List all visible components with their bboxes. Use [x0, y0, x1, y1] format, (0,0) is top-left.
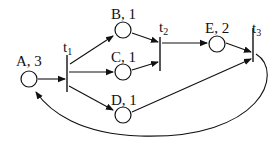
transition-t2-sub: 2 — [163, 26, 168, 37]
transition-t3-sub: 3 — [256, 27, 261, 38]
arc-t3-a — [36, 54, 267, 136]
place-c-label: C, 1 — [111, 49, 136, 65]
place-c: C, 1 — [111, 49, 136, 80]
svg-text:t3: t3 — [252, 20, 261, 38]
arc-d-t3 — [132, 59, 251, 112]
svg-text:t2: t2 — [159, 19, 168, 37]
transition-t3: t3 — [252, 20, 261, 62]
arc-t1-b — [70, 36, 113, 64]
arc-t1-d — [69, 86, 113, 110]
place-d: D, 1 — [111, 92, 137, 123]
transition-t1-sub: 1 — [67, 46, 72, 57]
transition-t1: t1 — [63, 39, 72, 92]
svg-text:t1: t1 — [63, 39, 72, 57]
place-e: E, 2 — [205, 20, 229, 52]
place-a: A, 3 — [16, 53, 42, 87]
arc-b-t2 — [132, 33, 158, 42]
place-b-label: B, 1 — [111, 6, 136, 22]
place-d-label: D, 1 — [111, 92, 137, 108]
arc-e-t3 — [226, 43, 251, 52]
petri-net-diagram: A, 3 B, 1 C, 1 D, 1 E, 2 t1 t2 t3 — [0, 0, 276, 145]
place-a-label: A, 3 — [16, 53, 42, 69]
transition-t2: t2 — [159, 19, 168, 71]
place-e-label: E, 2 — [205, 20, 229, 36]
